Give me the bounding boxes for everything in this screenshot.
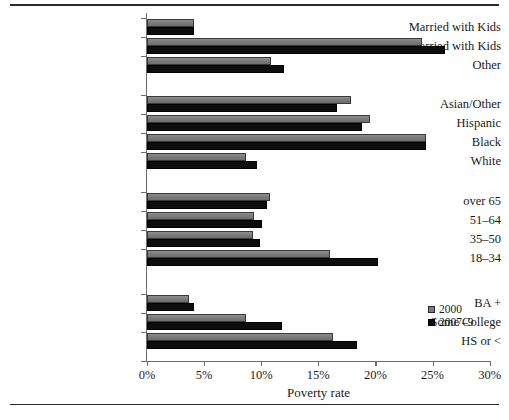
y-axis-tick [141, 152, 146, 153]
bar-2000 [147, 57, 271, 65]
category-label: 18–34 [371, 252, 509, 265]
legend-label: 2000 [439, 303, 462, 316]
y-axis-tick [141, 37, 146, 38]
bar-2007-9 [147, 201, 267, 209]
bar-2007-9 [147, 220, 262, 228]
y-axis-tick [141, 114, 146, 115]
x-axis-tick-label: 20% [350, 368, 400, 383]
category-label: HS or < [371, 335, 509, 348]
category-label: over 65 [371, 195, 509, 208]
bar-2000 [147, 295, 189, 303]
y-axis-tick [141, 332, 146, 333]
bar-2007-9 [147, 341, 357, 349]
x-axis-tick-label: 10% [236, 368, 286, 383]
y-axis-tick [141, 361, 146, 362]
bar-2007-9 [147, 27, 194, 35]
legend-swatch-2007-icon [428, 319, 435, 326]
bar-2000 [147, 333, 333, 341]
x-axis-tick-label: 30% [465, 368, 509, 383]
category-label: Married with Kids [371, 21, 509, 34]
y-axis-tick [141, 95, 146, 96]
y-axis-tick [141, 56, 146, 57]
bar-chart-plot: Married with KidsNonmarried with KidsOth… [0, 0, 509, 420]
bar-2007-9 [147, 161, 257, 169]
x-axis-tick-label: 0% [122, 368, 172, 383]
bar-2000 [147, 38, 422, 46]
legend-item: 2000 [428, 303, 474, 316]
bar-2000 [147, 314, 246, 322]
x-axis-tick [433, 361, 434, 366]
y-axis-tick [141, 294, 146, 295]
category-label: 51–64 [371, 214, 509, 227]
category-label: White [371, 155, 509, 168]
category-label: 35–50 [371, 233, 509, 246]
bar-2007-9 [147, 46, 445, 54]
bar-2000 [147, 96, 351, 104]
x-axis-tick-label: 25% [408, 368, 458, 383]
x-axis-tick [261, 361, 262, 366]
bar-2007-9 [147, 65, 284, 73]
bar-2007-9 [147, 104, 337, 112]
figure: Married with KidsNonmarried with KidsOth… [0, 0, 509, 420]
bar-2007-9 [147, 123, 362, 131]
bottom-rule [10, 404, 499, 405]
x-axis-title: Poverty rate [147, 385, 490, 401]
category-label: Hispanic [371, 117, 509, 130]
y-axis-tick [141, 313, 146, 314]
bar-2000 [147, 193, 270, 201]
bar-2007-9 [147, 142, 426, 150]
bar-2000 [147, 115, 370, 123]
x-axis-tick-label: 15% [293, 368, 343, 383]
bar-2000 [147, 212, 254, 220]
legend-swatch-2000-icon [428, 306, 435, 313]
y-axis-tick [141, 133, 146, 134]
x-axis-tick [375, 361, 376, 366]
chart-legend: 2000 2007–9 [428, 303, 474, 329]
figure-caption [14, 408, 494, 419]
legend-label: 2007–9 [439, 316, 474, 329]
x-axis-tick-label: 5% [179, 368, 229, 383]
bar-2007-9 [147, 303, 194, 311]
y-axis-tick [141, 18, 146, 19]
legend-item: 2007–9 [428, 316, 474, 329]
y-axis-tick [141, 249, 146, 250]
category-label: Asian/Other [371, 98, 509, 111]
bar-2007-9 [147, 239, 260, 247]
category-label: Other [371, 59, 509, 72]
bar-2000 [147, 250, 330, 258]
x-axis-tick [490, 361, 491, 366]
bar-2000 [147, 134, 426, 142]
bar-2000 [147, 231, 253, 239]
y-axis-tick [141, 230, 146, 231]
y-axis-tick [141, 192, 146, 193]
bar-2007-9 [147, 258, 378, 266]
bar-2000 [147, 153, 246, 161]
bar-2000 [147, 19, 194, 27]
x-axis-tick [147, 361, 148, 366]
x-axis-tick [204, 361, 205, 366]
x-axis-tick [318, 361, 319, 366]
y-axis-tick [141, 211, 146, 212]
bar-2007-9 [147, 322, 282, 330]
